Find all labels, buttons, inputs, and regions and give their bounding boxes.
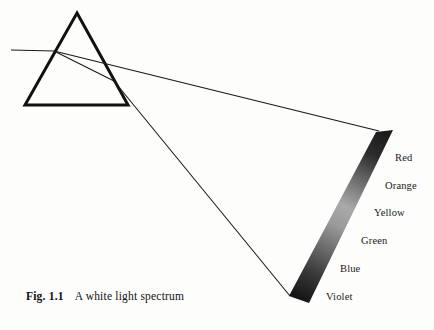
lower-emergent-ray (114, 81, 290, 296)
figure-caption: Fig. 1.1A white light spectrum (26, 290, 184, 302)
spectrum-label-yellow: Yellow (374, 207, 405, 218)
prism-triangle (25, 13, 128, 105)
spectrum-label-red: Red (395, 152, 412, 163)
figure-caption-number: Fig. 1.1 (26, 290, 64, 302)
spectrum-label-violet: Violet (326, 291, 353, 302)
incident-ray (11, 50, 54, 51)
spectrum-label-orange: Orange (385, 180, 417, 191)
spectrum-label-blue: Blue (340, 263, 360, 274)
upper-emergent-ray (54, 51, 379, 131)
spectrum-label-green: Green (361, 235, 387, 246)
figure-drawing-canvas (0, 0, 434, 330)
figure-white-light-spectrum: Red Orange Yellow Green Blue Violet Fig.… (0, 0, 434, 330)
figure-caption-text: A white light spectrum (75, 290, 184, 302)
